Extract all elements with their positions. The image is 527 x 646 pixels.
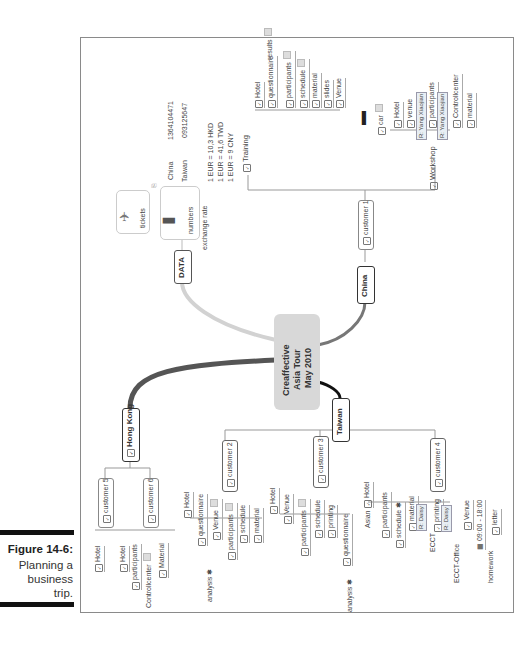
attachment-icon: ⎘: [150, 183, 159, 188]
task-checkbox[interactable]: ✓: [127, 449, 135, 457]
task-checkbox[interactable]: ✓: [435, 479, 443, 487]
taiwan-label: Taiwan: [335, 408, 344, 435]
rate-cny: 1 EUR = 9 CNY: [226, 133, 235, 182]
task-checkbox[interactable]: ✓: [286, 100, 294, 108]
taiwan-phone-number: 093125647: [180, 103, 189, 138]
customer6-label: ✓customer 6: [146, 478, 156, 523]
car-icon: ▬: [357, 111, 366, 125]
central-line-2: Asia Tour: [293, 349, 302, 390]
task-checkbox[interactable]: ✓: [328, 530, 336, 538]
task-checkbox[interactable]: ✓: [243, 164, 251, 172]
note-icon: [283, 51, 291, 59]
task-checkbox[interactable]: ✓: [120, 564, 128, 572]
training-item-hotel[interactable]: ✓Hotel: [253, 82, 265, 108]
customer3-item-printing[interactable]: ✓printing: [326, 505, 338, 538]
training-item-schedule[interactable]: ✓schedule: [297, 59, 310, 108]
rate-hkd: 1 EUR = 10,3 HKD: [206, 123, 215, 182]
task-checkbox[interactable]: ✓: [407, 120, 415, 128]
data-label: DATA: [177, 257, 186, 278]
workshop-item-controllcenter[interactable]: ✓Controllcenter: [451, 74, 463, 128]
task-checkbox[interactable]: ✓: [364, 500, 372, 508]
customer1-label: ✓customer 1: [361, 200, 371, 245]
workshop-item-hotel[interactable]: ✓Hotel: [392, 102, 404, 128]
task-checkbox[interactable]: ✓: [301, 548, 309, 556]
customer3-item-schedule[interactable]: ✓schedule: [313, 500, 325, 538]
customer4-item-participants[interactable]: ✓participants: [380, 492, 392, 538]
task-checkbox[interactable]: ✓: [268, 100, 276, 108]
customer3-item-questionnaire[interactable]: ✓questionnaire: [341, 514, 353, 566]
task-checkbox[interactable]: ✓: [324, 100, 332, 108]
customer3-item-participants[interactable]: ✓participants: [298, 499, 311, 556]
task-checkbox[interactable]: ✓: [270, 506, 278, 514]
task-checkbox[interactable]: ✓: [198, 538, 206, 546]
customer2-item-participants[interactable]: ✓participants: [225, 503, 238, 560]
ecct-label: ECCT: [428, 533, 437, 552]
note-icon: [298, 499, 306, 507]
workshop-node[interactable]: ✓Workshop: [428, 146, 438, 190]
customer5-item-hotel[interactable]: ✓Hotel: [93, 546, 105, 572]
customer2-item-schedule[interactable]: ✓schedule: [238, 505, 250, 543]
task-checkbox[interactable]: ✓: [467, 120, 475, 128]
note-icon: [297, 59, 305, 67]
task-checkbox[interactable]: ✓: [132, 582, 140, 590]
customer3-item-venue[interactable]: ✓Venue: [282, 494, 294, 524]
customer4-item-venue[interactable]: ✓Venue: [462, 500, 474, 530]
customer6-item-material[interactable]: ✓Material: [157, 543, 169, 578]
training-item-car[interactable]: ✓car: [375, 104, 386, 135]
task-checkbox[interactable]: ✓: [363, 237, 371, 245]
task-checkbox[interactable]: ✓: [184, 510, 192, 518]
task-checkbox[interactable]: ✓: [492, 527, 500, 535]
workshop-participants-resource: R: Yang Xiaojian: [437, 92, 448, 140]
task-checkbox[interactable]: ✓: [148, 515, 156, 523]
time-node[interactable]: ▦ 09:00 - 18:00: [475, 500, 486, 550]
training-item-material[interactable]: ✓material: [310, 73, 322, 108]
priority-icon: ✱: [206, 569, 213, 575]
task-checkbox[interactable]: ✓: [394, 120, 402, 128]
training-item-venue[interactable]: ✓Venue: [334, 78, 346, 108]
task-checkbox[interactable]: ✓: [453, 120, 461, 128]
task-checkbox[interactable]: ✓: [254, 535, 262, 543]
task-checkbox[interactable]: ✓: [227, 479, 235, 487]
task-checkbox[interactable]: ✓: [315, 530, 323, 538]
taiwan-phone-label: Taiwan: [180, 160, 189, 182]
customer6-item-hotel[interactable]: ✓Hotel: [118, 546, 130, 572]
customer2-analysis[interactable]: analysis ✱: [205, 569, 214, 602]
task-checkbox[interactable]: ✓: [396, 540, 404, 548]
customer3-item-hotel[interactable]: ✓Hotel: [268, 488, 280, 514]
hongkong-label: ✓Hong Kong: [125, 404, 135, 457]
task-checkbox[interactable]: ✓: [159, 570, 167, 578]
customer2-item-material[interactable]: ✓material: [252, 508, 264, 543]
task-checkbox[interactable]: ✓: [284, 516, 292, 524]
customer2-item-venue[interactable]: ✓Venue: [210, 499, 223, 540]
task-checkbox[interactable]: ✓: [300, 100, 308, 108]
task-checkbox[interactable]: ✓: [312, 100, 320, 108]
task-checkbox[interactable]: ✓: [336, 100, 344, 108]
workshop-item-material[interactable]: ✓material: [465, 93, 477, 128]
china-phone-number: 1364104471: [166, 101, 175, 140]
task-checkbox[interactable]: ✓: [382, 530, 390, 538]
training-item-slides[interactable]: ✓slides: [322, 80, 334, 108]
task-checkbox[interactable]: ✓: [240, 535, 248, 543]
customer2-item-hotel[interactable]: ✓Hotel: [182, 492, 194, 518]
task-checkbox[interactable]: ✓: [255, 100, 263, 108]
task-checkbox[interactable]: ✓: [378, 127, 386, 135]
training-item-participants[interactable]: ✓participants: [283, 51, 296, 108]
task-checkbox[interactable]: ✓: [95, 564, 103, 572]
task-checkbox[interactable]: ✓: [430, 182, 438, 190]
customer2-item-questionnaire[interactable]: ✓questionnaire: [196, 494, 208, 546]
customer6-item-controllcenter[interactable]: Controllcenter: [143, 553, 153, 608]
customer4-item-letter[interactable]: ✓letter: [490, 509, 502, 535]
customer4-item-schedule[interactable]: ✓schedule ✱: [394, 502, 406, 548]
task-checkbox[interactable]: ✓: [213, 532, 221, 540]
task-checkbox[interactable]: ✓: [343, 558, 351, 566]
task-checkbox[interactable]: ✓: [103, 515, 111, 523]
customer4-item-hotel[interactable]: ✓Hotel: [362, 482, 374, 508]
task-checkbox[interactable]: ✓: [228, 552, 236, 560]
task-checkbox[interactable]: ✓: [464, 522, 472, 530]
customer3-analysis[interactable]: analysis ✱: [345, 579, 354, 612]
task-checkbox[interactable]: ✓: [429, 120, 437, 128]
training-item-questionnaire[interactable]: ✓questionnaire: [266, 56, 278, 108]
task-checkbox[interactable]: ✓: [318, 475, 326, 483]
customer6-item-participants[interactable]: ✓participants: [130, 544, 142, 590]
training-node[interactable]: ✓Training: [241, 135, 251, 172]
